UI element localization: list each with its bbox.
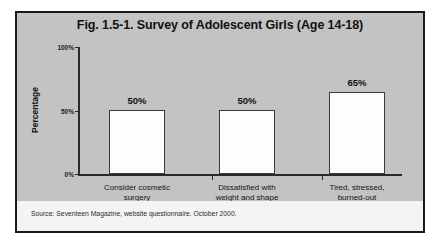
category-label-1: Consider cosmetic surgery [85, 183, 189, 203]
bar-tired-stressed-burned-out [329, 92, 385, 174]
bar-value-label-2: 50% [217, 95, 277, 106]
category-label-3: Tired, stressed, burned-out [305, 183, 409, 203]
figure-container: Fig. 1.5-1. Survey of Adolescent Girls (… [15, 11, 425, 233]
category-label-3-line-1: Tired, stressed, [305, 183, 409, 193]
bar-value-label-1: 50% [107, 95, 167, 106]
y-tick-label-0-text: 0% [44, 171, 74, 178]
source-note: Source: Seventeen Magazine, website ques… [31, 210, 237, 217]
category-label-2: Dissatisfied with weight and shape [195, 183, 299, 203]
chart-plot-panel: Fig. 1.5-1. Survey of Adolescent Girls (… [17, 13, 423, 201]
chart-title: Fig. 1.5-1. Survey of Adolescent Girls (… [17, 18, 423, 32]
x-tick-mark-2 [322, 176, 323, 180]
category-label-2-line-1: Dissatisfied with [195, 183, 299, 193]
bar-dissatisfied-with-weight-and-shape [219, 110, 275, 174]
source-strip: Source: Seventeen Magazine, website ques… [17, 201, 423, 231]
x-tick-mark-1 [212, 176, 213, 180]
bar-value-label-3: 65% [327, 77, 387, 88]
y-tick-label-50-text: 50% [44, 108, 74, 115]
y-tick-label-100-text: 100% [44, 44, 74, 51]
x-axis-line [78, 174, 402, 176]
bar-consider-cosmetic-surgery [109, 110, 165, 174]
y-axis-line [78, 47, 80, 175]
y-axis-title: Percentage [30, 80, 40, 140]
category-label-1-line-1: Consider cosmetic [85, 183, 189, 193]
